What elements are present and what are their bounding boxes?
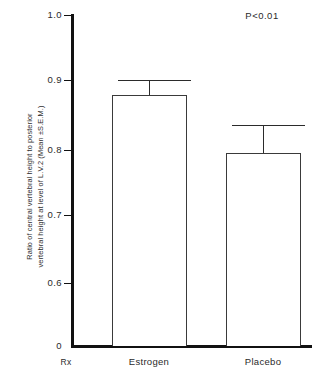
y-axis-title: Ratio of central vertebral height to pos… — [25, 67, 46, 307]
error-bar-stem-placebo — [263, 125, 264, 154]
bar-placebo[interactable] — [226, 153, 301, 346]
y-tick-label-0-8: 0.8 — [18, 145, 62, 155]
y-tick-label-0-7: 0.7 — [18, 210, 62, 220]
y-tick-label-0-6: 0.6 — [18, 278, 62, 288]
y-tick-0-6 — [64, 283, 72, 284]
y-axis-title-line-2: vertebral height at level of L.V.2 (Mean… — [35, 67, 46, 307]
x-axis-rx-label: Rx — [61, 357, 72, 367]
y-tick-1-0 — [64, 15, 72, 16]
x-tick-label-estrogen: Estrogen — [129, 356, 169, 367]
y-tick-label-1-0: 1.0 — [18, 10, 62, 20]
y-axis-line — [71, 14, 74, 348]
error-bar-cap-placebo — [232, 125, 305, 126]
y-tick-0-9 — [64, 80, 72, 81]
y-axis-title-line-1: Ratio of central vertebral height to pos… — [25, 67, 36, 307]
error-bar-cap-estrogen — [118, 80, 191, 81]
bar-estrogen[interactable] — [112, 95, 187, 346]
y-tick-0-7 — [64, 215, 72, 216]
error-bar-stem-estrogen — [149, 80, 150, 96]
x-tick-label-placebo: Placebo — [245, 356, 281, 367]
bar-chart-figure: P<0.01 Ratio of central vertebral height… — [0, 0, 327, 376]
y-tick-0-8 — [64, 150, 72, 151]
y-tick-label-0: 0 — [18, 341, 62, 351]
pvalue-annotation: P<0.01 — [245, 10, 278, 21]
y-tick-label-0-9: 0.9 — [18, 75, 62, 85]
